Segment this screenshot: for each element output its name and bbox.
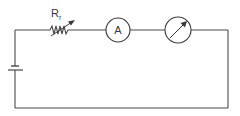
resistor-arrow-head	[68, 20, 75, 26]
variable-resistor-icon	[48, 20, 75, 36]
ammeter-icon: A	[106, 18, 130, 42]
meter-dial-icon	[165, 17, 191, 43]
circuit-diagram: R r A	[0, 0, 240, 116]
resistor-label: R	[51, 7, 59, 19]
ammeter-label: A	[114, 24, 122, 36]
resistor-label-subscript: r	[59, 14, 62, 21]
resistor-zigzag	[48, 26, 70, 34]
battery-icon	[8, 66, 23, 70]
